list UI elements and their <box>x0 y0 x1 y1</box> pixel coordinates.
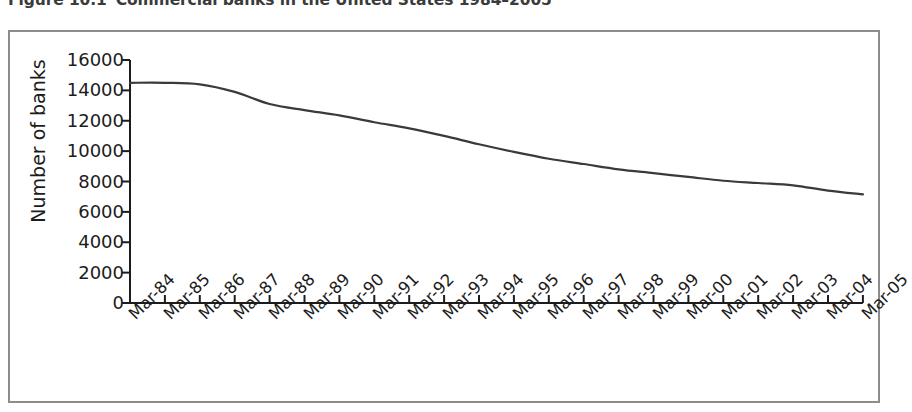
x-axis-tick-labels: Mar-84Mar-85Mar-86Mar-87Mar-88Mar-89Mar-… <box>0 0 889 412</box>
